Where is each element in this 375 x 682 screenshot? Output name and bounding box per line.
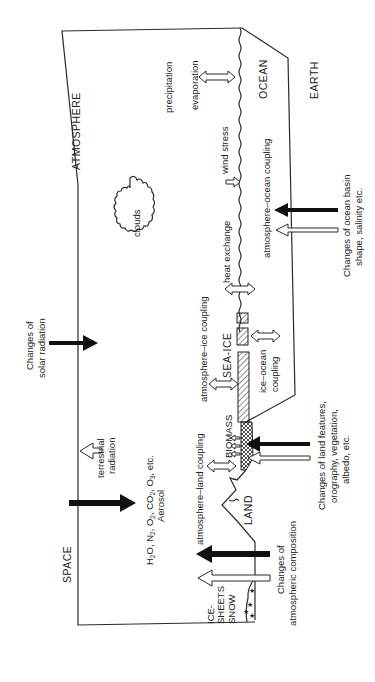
land-forcing-solid-arrow xyxy=(246,436,310,452)
ocean-basin-change-label-2: shape, salinity etc. xyxy=(353,188,364,266)
ice-sheets-label-2: SHEETS xyxy=(215,586,226,624)
atmosphere-ice-coupling-label: atmosphere–ice coupling xyxy=(198,296,209,402)
svg-text:★: ★ xyxy=(249,587,255,595)
svg-text:★: ★ xyxy=(249,612,255,620)
atmosphere-frame xyxy=(62,28,255,625)
solar-radiation-arrow xyxy=(49,335,98,351)
earth-label: EARTH xyxy=(308,61,320,99)
precipitation-label: precipitation xyxy=(163,62,174,113)
atmosphere-land-coupling-arrow xyxy=(207,460,236,472)
ice-ocean-coupling-label-1: ice–ocean xyxy=(257,350,268,393)
solar-change-label-1: Changes of xyxy=(24,321,35,370)
sea-ice-label: SEA-ICE xyxy=(221,332,233,378)
atmos-composition-change-label-1: Changes of xyxy=(275,545,286,594)
space-label: SPACE xyxy=(61,546,73,583)
wind-stress-label: wind stress xyxy=(219,126,230,175)
wind-stress-arrow xyxy=(226,177,240,187)
ocean-label: OCEAN xyxy=(257,59,269,99)
snow-stars-icon: ★ ★ ★ ★ xyxy=(243,587,255,620)
atmosphere-label: ATMOSPHERE xyxy=(70,92,82,170)
biomass-label: BIOMASS xyxy=(223,415,234,458)
terrestrial-radiation-label-1: terrestrial xyxy=(95,438,106,478)
atmos-composition-change-label-2: atmospheric composition xyxy=(287,521,298,626)
heat-exchange-label: heat exchange xyxy=(221,221,232,283)
land-change-label-3: albedo, etc. xyxy=(340,435,351,484)
atmosphere-ocean-coupling-label: atmosphere–ocean coupling xyxy=(261,139,272,258)
clouds-label: clouds xyxy=(131,209,142,237)
land-change-label-2: orography, vegetation, xyxy=(328,409,339,503)
atmosphere-ice-coupling-arrow xyxy=(209,378,238,390)
ice-ocean-coupling-arrow xyxy=(251,330,280,342)
sea-ice-block xyxy=(237,328,248,345)
land-label: LAND xyxy=(242,495,254,525)
evaporation-precipitation-arrow xyxy=(199,71,235,83)
ocean-basin-change-label-1: Changes of ocean basin xyxy=(341,175,352,277)
atmos-composition-solid-arrow xyxy=(196,545,270,563)
ice-sheets-label-3: SNOW xyxy=(226,594,237,624)
composition-arrow xyxy=(69,494,136,512)
land-forcing-hollow-arrow xyxy=(248,452,310,464)
solar-change-label-2: solar radiation xyxy=(36,318,47,378)
evaporation-label: evaporation xyxy=(189,60,200,110)
mountain-snow xyxy=(229,479,239,501)
atmosphere-land-coupling-label: atmosphere–land coupling xyxy=(194,434,205,545)
atmos-composition-hollow-arrow xyxy=(198,570,270,586)
aerosol-label: Aerosol xyxy=(155,490,166,522)
terrestrial-radiation-label-2: radiation xyxy=(106,438,117,474)
ocean-basin-hollow-arrow xyxy=(276,224,338,236)
land-change-label-1: Changes of land features, xyxy=(316,401,327,510)
sea-ice-block xyxy=(238,352,249,422)
ice-ocean-coupling-label-2: coupling xyxy=(269,357,280,392)
ocean-basin-solid-arrow xyxy=(274,203,338,217)
sea-ice-block xyxy=(237,313,248,323)
climate-system-diagram: ★ ★ ★ ★ SPACE ATMOSPHERE O xyxy=(0,0,375,682)
